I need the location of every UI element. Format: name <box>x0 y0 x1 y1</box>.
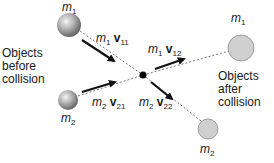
label-m1v12: m1 v12 <box>148 43 181 57</box>
mass-subscript: 1 <box>241 18 245 27</box>
mass-symbol: m <box>96 31 106 45</box>
circle-m2-after <box>198 119 218 139</box>
label-m2v21: m2 v21 <box>92 96 125 110</box>
mass-subscript: 2 <box>149 102 153 111</box>
label-m2-before: m2 <box>61 112 75 126</box>
mass-symbol: m <box>92 95 102 109</box>
label-m2-after: m2 <box>200 143 214 157</box>
mass-symbol: m <box>61 111 71 125</box>
circle-m1-after <box>228 35 254 61</box>
label-m1-before: m1 <box>62 1 76 15</box>
label-m1-after: m1 <box>231 12 245 26</box>
trajectory-m2-before <box>78 75 143 96</box>
velocity-subscript: 22 <box>163 102 172 111</box>
mass-subscript: 2 <box>71 118 75 127</box>
label-m1v11: m1 v11 <box>96 32 129 46</box>
mass-symbol: m <box>139 95 149 109</box>
mass-symbol: m <box>200 142 210 156</box>
arrow-m1v12 <box>155 59 184 69</box>
collision-point <box>140 72 147 79</box>
velocity-subscript: 11 <box>120 38 128 47</box>
caption-before: Objects before collision <box>2 47 45 86</box>
label-m2v22: m2 v22 <box>139 96 172 110</box>
caption-line: collision <box>2 73 45 86</box>
mass-subscript: 2 <box>102 102 106 111</box>
mass-subscript: 2 <box>210 149 214 158</box>
mass-symbol: m <box>231 11 241 25</box>
mass-subscript: 1 <box>72 7 76 16</box>
mass-subscript: 1 <box>106 38 110 47</box>
velocity-subscript: 21 <box>116 102 125 111</box>
sphere-m1-before <box>57 13 81 37</box>
caption-after: Objects after collision <box>218 70 261 109</box>
mass-symbol: m <box>62 0 72 14</box>
sphere-m2-before <box>58 90 78 110</box>
arrow-m2v21 <box>82 82 115 92</box>
velocity-subscript: 12 <box>172 49 181 58</box>
mass-subscript: 1 <box>158 49 162 58</box>
caption-line: collision <box>218 96 261 109</box>
mass-symbol: m <box>148 42 158 56</box>
